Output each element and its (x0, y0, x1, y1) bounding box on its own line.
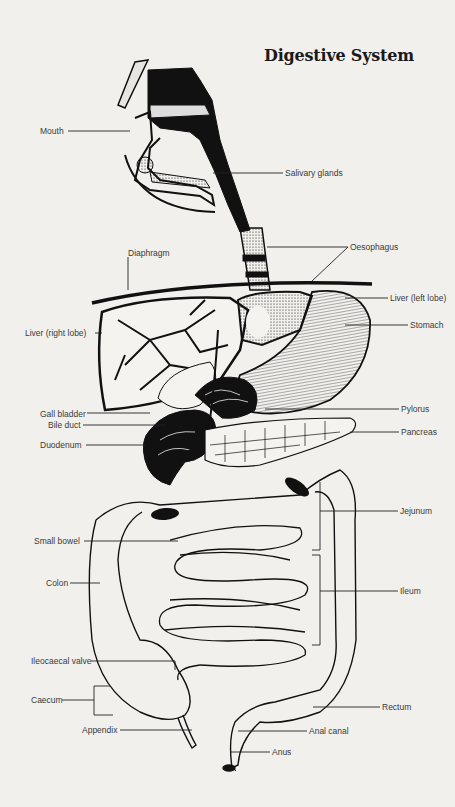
pancreas (205, 418, 356, 467)
label-caecum: Caecum (31, 695, 63, 705)
label-stomach: Stomach (410, 320, 444, 330)
label-pylorus: Pylorus (401, 404, 429, 414)
label-ileocaecal-valve: Ileocaecal valve (31, 656, 91, 666)
label-rectum: Rectum (382, 702, 411, 712)
anatomy-illustration (0, 0, 455, 807)
digestive-system-diagram: Digestive System (0, 0, 455, 807)
label-pancreas: Pancreas (401, 427, 437, 437)
label-small-bowel: Small bowel (34, 536, 80, 546)
oesophagus (240, 228, 270, 290)
label-jejunum: Jejunum (400, 506, 432, 516)
label-liver-left-lobe: Liver (left lobe) (390, 293, 446, 303)
label-duodenum: Duodenum (40, 440, 82, 450)
label-ileum: Ileum (400, 586, 421, 596)
label-diaphragm: Diaphragm (128, 248, 170, 258)
small-bowel (159, 526, 307, 680)
label-salivary-glands: Salivary glands (285, 168, 343, 178)
label-anal-canal: Anal canal (309, 726, 349, 736)
label-colon: Colon (46, 578, 68, 588)
label-oesophagus: Oesophagus (350, 242, 398, 252)
label-bile-duct: Bile duct (48, 420, 81, 430)
label-gall-bladder: Gall bladder (40, 409, 86, 419)
label-appendix: Appendix (82, 725, 117, 735)
label-mouth: Mouth (40, 126, 64, 136)
label-anus: Anus (272, 747, 291, 757)
label-liver-right-lobe: Liver (right lobe) (25, 328, 86, 338)
head-section (118, 60, 250, 232)
